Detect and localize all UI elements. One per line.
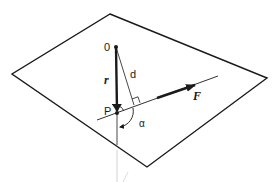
moment-diagram: 0 d r P α F bbox=[0, 0, 275, 182]
label-angle: α bbox=[139, 118, 145, 129]
label-point: P bbox=[104, 105, 111, 117]
plane bbox=[12, 14, 267, 167]
label-force: F bbox=[192, 89, 201, 103]
faint-mark bbox=[123, 172, 128, 182]
position-vector-r bbox=[116, 47, 117, 111]
label-origin: 0 bbox=[104, 41, 110, 53]
force-vector-f bbox=[157, 85, 195, 98]
point-p bbox=[115, 111, 119, 115]
point-o bbox=[114, 45, 118, 49]
label-position-vector: r bbox=[104, 73, 109, 87]
label-distance: d bbox=[130, 68, 136, 80]
